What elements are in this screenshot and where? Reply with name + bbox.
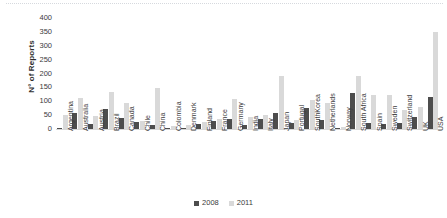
legend-label: 2008 — [202, 199, 219, 207]
y-tick-label: 0 — [24, 125, 52, 133]
bar-2008 — [57, 128, 62, 129]
x-axis-label: Japan — [283, 112, 291, 131]
x-axis-label: UK — [422, 121, 430, 131]
y-tick-label: 100 — [24, 97, 52, 105]
x-axis-label: Sweden — [391, 106, 399, 131]
legend-item[interactable]: 2008 — [194, 199, 219, 207]
y-axis-tick-labels: 400350300250200150100500 — [24, 18, 52, 130]
y-tick-label: 400 — [24, 14, 52, 22]
y-tick-label: 50 — [24, 111, 52, 119]
x-axis-label: Colombia — [175, 101, 183, 131]
x-axis-label: Finland — [206, 108, 214, 131]
legend-label: 2011 — [237, 199, 253, 207]
x-axis-label: Germany — [237, 102, 245, 131]
x-axis-label: Spain — [376, 113, 384, 131]
chart-legend: 20082011 — [0, 199, 447, 207]
x-axis-label: Argentina — [67, 101, 75, 131]
x-axis-label: China — [159, 113, 167, 131]
x-axis-label: Brazil — [113, 113, 121, 131]
x-axis-label: Austria — [98, 109, 106, 131]
x-axis-label: Norway — [345, 107, 353, 131]
top-dotted-rule — [6, 3, 443, 5]
x-axis-label: Switzerland — [406, 95, 414, 131]
legend-item[interactable]: 2011 — [229, 199, 253, 207]
chart-figure: N° of Reports 400350300250200150100500 A… — [0, 0, 447, 218]
y-tick-label: 200 — [24, 70, 52, 78]
legend-swatch-icon — [194, 201, 199, 206]
bar-group — [257, 18, 272, 129]
x-axis-label: France — [221, 109, 229, 131]
x-axis-label: South Africa — [360, 93, 368, 131]
x-axis-label: Australia — [82, 104, 90, 131]
y-tick-label: 300 — [24, 42, 52, 50]
y-tick-label: 350 — [24, 28, 52, 36]
bar-2011 — [433, 32, 438, 129]
x-axis-label: Italy — [267, 118, 275, 131]
bar-group — [427, 18, 442, 129]
x-axis-label: Netherlands — [329, 93, 337, 131]
x-axis-label: Chile — [144, 115, 152, 131]
y-tick-label: 150 — [24, 83, 52, 91]
x-axis-label: India — [252, 116, 260, 131]
x-axis-label: SouthKorea — [314, 94, 322, 131]
x-axis-label: Portugal — [298, 105, 306, 131]
x-axis-category-labels: ArgentinaAustraliaAustriaBrazilCanadaChi… — [56, 131, 442, 193]
x-axis-label: USA — [437, 117, 445, 131]
y-tick-label: 250 — [24, 56, 52, 64]
x-axis-label: Canada — [128, 106, 136, 131]
x-axis-label: Denmark — [190, 103, 198, 131]
legend-swatch-icon — [229, 201, 234, 206]
